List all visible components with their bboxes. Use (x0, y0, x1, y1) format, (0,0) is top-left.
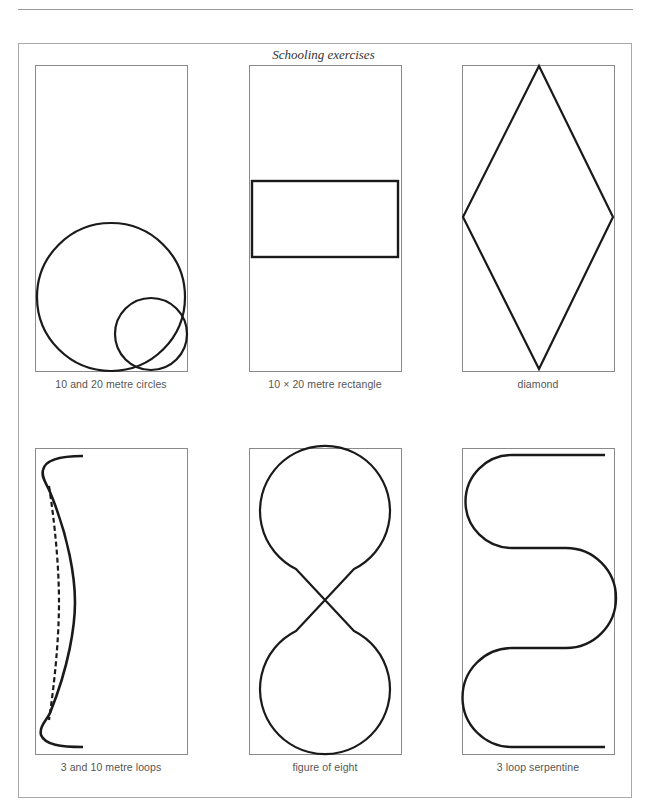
panel-diamond (462, 65, 615, 372)
caption-circles: 10 and 20 metre circles (11, 378, 211, 390)
caption-rectangle: 10 × 20 metre rectangle (225, 378, 425, 390)
panel-loops (35, 448, 188, 755)
panel-rectangle (249, 65, 402, 372)
loops-figure-icon (35, 448, 188, 755)
arena-outline (463, 449, 615, 755)
caption-serpentine: 3 loop serpentine (438, 761, 638, 773)
figure-eight-icon (249, 448, 402, 755)
diamond-figure-icon (462, 65, 615, 372)
circles-figure-icon (35, 65, 188, 372)
top-rule (18, 9, 633, 10)
rectangle-figure-icon (249, 65, 402, 372)
caption-diamond: diamond (438, 378, 638, 390)
arena-outline (463, 66, 615, 372)
caption-loops: 3 and 10 metre loops (11, 761, 211, 773)
figure-title: Schooling exercises (0, 47, 647, 63)
serpentine-figure-icon (462, 448, 615, 755)
caption-figure-eight: figure of eight (225, 761, 425, 773)
panel-circles (35, 65, 188, 372)
panel-figure-eight (249, 448, 402, 755)
arena-outline (36, 66, 188, 372)
panel-serpentine (462, 448, 615, 755)
arena-outline (250, 66, 402, 372)
